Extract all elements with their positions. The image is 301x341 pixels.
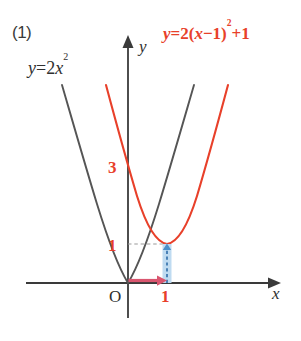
coordinate-plot — [0, 0, 301, 341]
problem-number-label: (1) — [12, 24, 31, 41]
origin-label: O — [109, 288, 121, 305]
red-eq-close-paren: ) — [221, 24, 227, 43]
red-eq-coefficient: 2 — [180, 24, 189, 43]
y-axis-label: y — [139, 38, 147, 55]
red-eq-exponent: 2 — [227, 18, 232, 28]
parabola-translation-figure: (1) y=2x2 y=2(x−1)2+1 y x O 3 1 1 — [0, 0, 301, 341]
base-curve-equation-label: y=2x2 — [28, 59, 68, 77]
x-shift-arrow — [129, 276, 168, 286]
red-eq-lhs: y — [163, 24, 171, 43]
x-vertex-value-label: 1 — [161, 288, 170, 305]
base-eq-coefficient: 2 — [46, 58, 55, 78]
base-eq-equals: = — [36, 58, 46, 78]
y-axis-arrowhead — [123, 35, 134, 48]
translated-curve-equation-label: y=2(x−1)2+1 — [163, 25, 250, 42]
y-intercept-value-label: 3 — [108, 159, 117, 176]
red-eq-plus: + — [232, 24, 242, 43]
red-eq-minus: − — [203, 24, 213, 43]
translated-parabola-curve — [106, 85, 228, 244]
axes — [26, 35, 281, 318]
red-eq-shift-x: 1 — [213, 24, 222, 43]
base-eq-exponent: 2 — [63, 51, 68, 62]
y-vertex-value-label: 1 — [108, 237, 117, 254]
red-eq-equals: = — [171, 24, 181, 43]
red-eq-shift-y: 1 — [241, 24, 250, 43]
x-axis-label: x — [272, 285, 280, 302]
y-shift-arrow — [163, 244, 172, 284]
base-eq-variable: x — [55, 58, 63, 78]
red-eq-variable: x — [194, 24, 203, 43]
base-eq-lhs: y — [28, 58, 36, 78]
